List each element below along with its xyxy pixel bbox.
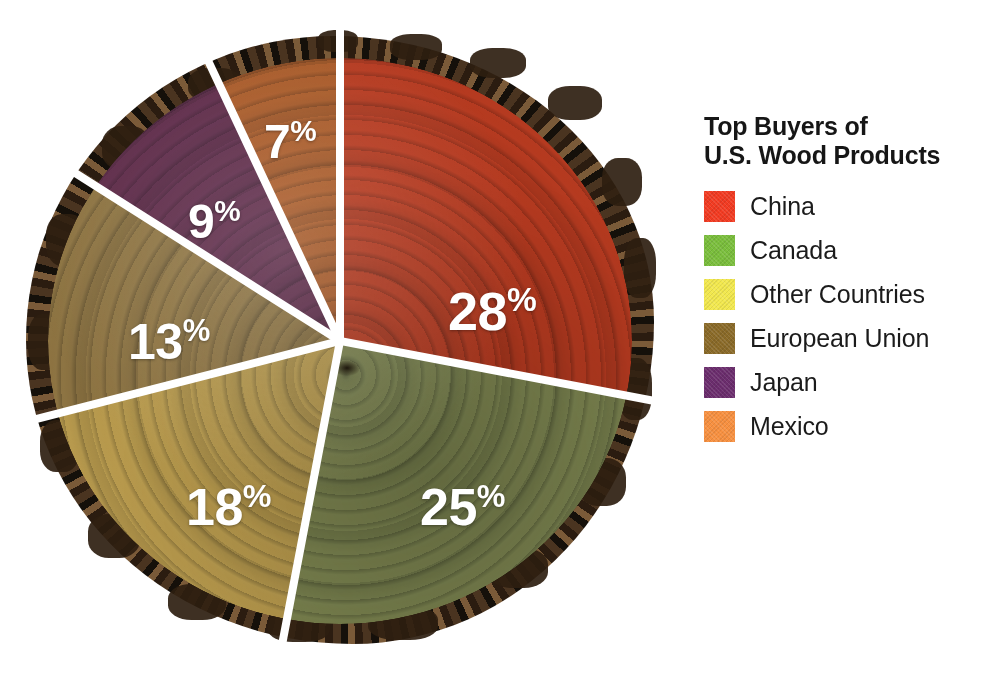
legend-swatch-european-union	[704, 323, 735, 354]
slice-label-japan: 9%	[188, 196, 241, 246]
legend-item-other-countries[interactable]: Other Countries	[704, 272, 979, 316]
slice-label-mexico: 7%	[264, 116, 317, 166]
bark-nub	[318, 30, 358, 52]
legend-item-china[interactable]: China	[704, 184, 979, 228]
legend-label-japan: Japan	[750, 370, 818, 395]
legend-item-canada[interactable]: Canada	[704, 228, 979, 272]
legend-item-japan[interactable]: Japan	[704, 360, 979, 404]
legend-label-canada: Canada	[750, 238, 837, 263]
legend-label-european-union: European Union	[750, 326, 929, 351]
legend-item-european-union[interactable]: European Union	[704, 316, 979, 360]
legend-swatch-canada	[704, 235, 735, 266]
slice-label-other-countries: 18%	[186, 480, 272, 533]
legend-label-mexico: Mexico	[750, 414, 829, 439]
legend-swatch-japan	[704, 367, 735, 398]
legend-label-other-countries: Other Countries	[750, 282, 925, 307]
wood-disc: 28% 25% 18% 13% 9% 7%	[18, 28, 668, 653]
legend-title: Top Buyers of U.S. Wood Products	[704, 112, 979, 170]
legend-swatch-mexico	[704, 411, 735, 442]
slice-label-china: 28%	[448, 283, 537, 338]
clipped-header-text	[0, 0, 987, 6]
legend-label-china: China	[750, 194, 815, 219]
legend-item-mexico[interactable]: Mexico	[704, 404, 979, 448]
legend-title-line-1: Top Buyers of	[704, 112, 979, 141]
legend: Top Buyers of U.S. Wood Products China C…	[704, 112, 979, 448]
legend-swatch-other-countries	[704, 279, 735, 310]
slice-label-canada: 25%	[420, 480, 506, 533]
legend-title-line-2: U.S. Wood Products	[704, 141, 979, 170]
slice-label-european-union: 13%	[128, 315, 210, 367]
pie-chart: 28% 25% 18% 13% 9% 7%	[18, 28, 668, 653]
bark-nub	[390, 34, 442, 60]
legend-swatch-china	[704, 191, 735, 222]
